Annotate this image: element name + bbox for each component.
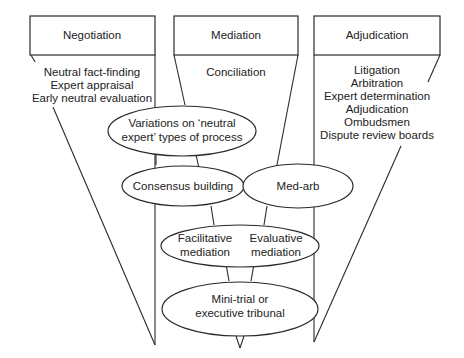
adjudication-item: Adjudication <box>346 103 409 115</box>
minitrial-line2: executive tribunal <box>195 307 285 319</box>
evaluative-line2: mediation <box>251 246 301 258</box>
minitrial-line1: Mini-trial or <box>212 293 269 305</box>
facilitative-line1: Facilitative <box>178 232 232 244</box>
adjudication-item: Ombudsmen <box>344 116 410 128</box>
dispute-resolution-diagram: Negotiation Mediation Adjudication Neutr… <box>0 0 464 358</box>
evaluative-line1: Evaluative <box>249 232 302 244</box>
mediation-title: Mediation <box>211 29 261 41</box>
variations-line1: Variations on ‘neutral <box>128 117 235 129</box>
mediation-item: Conciliation <box>206 66 265 78</box>
negotiation-title: Negotiation <box>63 29 121 41</box>
adjudication-item: Dispute review boards <box>320 129 434 141</box>
negotiation-item: Expert appraisal <box>50 79 133 91</box>
adjudication-item: Arbitration <box>351 77 403 89</box>
consensus-label: Consensus building <box>133 180 233 192</box>
adjudication-item: Expert determination <box>324 90 430 102</box>
adjudication-item: Litigation <box>354 64 400 76</box>
facilitative-line2: mediation <box>180 246 230 258</box>
medarb-label: Med-arb <box>277 180 320 192</box>
negotiation-item: Neutral fact-finding <box>44 66 141 78</box>
adjudication-title: Adjudication <box>346 29 409 41</box>
negotiation-item: Early neutral evaluation <box>32 92 152 104</box>
variations-line2: expert’ types of process <box>121 131 242 143</box>
